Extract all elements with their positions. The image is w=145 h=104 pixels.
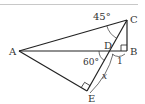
label-length-1: 1 [117, 56, 123, 66]
label-E: E [88, 93, 95, 104]
right-angle-marker-B [121, 45, 127, 51]
label-angle-60: 60° [83, 57, 99, 67]
angle-arc-60 [99, 51, 105, 61]
label-A: A [8, 46, 17, 57]
label-length-x: x [102, 71, 107, 81]
angle-arc-45 [107, 26, 117, 39]
segment-AE [19, 51, 87, 91]
geometry-diagram: 45° C A D B 60° 1 x E [0, 0, 145, 104]
segments [19, 20, 127, 91]
label-C: C [130, 14, 138, 25]
label-B: B [130, 46, 137, 57]
label-D: D [104, 40, 112, 51]
label-angle-45: 45° [93, 11, 111, 22]
